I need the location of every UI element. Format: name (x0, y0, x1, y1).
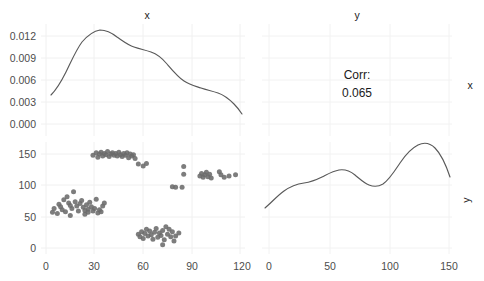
scatter-point (73, 199, 78, 204)
scatter-point (133, 156, 138, 161)
scatter-point (55, 211, 60, 216)
scatter-point (173, 185, 178, 190)
strip-label-y: y (460, 197, 472, 203)
scatter-point (102, 200, 107, 205)
xtick-y-150: 150 (440, 260, 458, 272)
scatter-point (209, 175, 214, 180)
scatter-point (144, 161, 149, 166)
ytick-150: 150 (18, 148, 36, 160)
ytick-50: 50 (24, 211, 36, 223)
scatter-point (136, 162, 141, 167)
ytick-0006: 0.006 (10, 74, 36, 86)
scatter-point (92, 206, 97, 211)
panel-scatter (41, 142, 245, 254)
scatter-point (160, 242, 165, 247)
xtick-y-0: 0 (266, 260, 272, 272)
scatter-point (87, 200, 92, 205)
scatter-point (171, 239, 176, 244)
scatter-point (63, 209, 68, 214)
scatter-point (68, 213, 73, 218)
scatter-point (141, 236, 146, 241)
scatter-point (222, 175, 227, 180)
scatter-point (94, 197, 99, 202)
scatter-point (79, 198, 84, 203)
scatter-point (227, 174, 232, 179)
scatter-point (168, 234, 173, 239)
xtick-90: 90 (186, 260, 198, 272)
scatter-point (233, 172, 238, 177)
xtick-30: 30 (88, 260, 100, 272)
scatterplot-matrix: 0.012 0.009 0.006 0.003 0.000 x Corr: 0.… (0, 0, 484, 281)
scatter-point (86, 210, 91, 215)
scatter-point (99, 209, 104, 214)
xtick-120: 120 (233, 260, 251, 272)
ytick-0: 0 (30, 242, 36, 254)
panel-correlation: Corr: 0.065 (262, 24, 452, 136)
panel-title-y: y (354, 9, 360, 21)
xtick-y-50: 50 (324, 260, 336, 272)
ytick-100: 100 (18, 179, 36, 191)
xtick-60: 60 (137, 260, 149, 272)
panel-density-y-background (262, 142, 452, 254)
scatter-point (159, 233, 164, 238)
scatter-point (65, 194, 70, 199)
panel-density-x (41, 24, 245, 136)
scatter-point (181, 172, 186, 177)
scatter-point (170, 229, 175, 234)
scatter-point (71, 189, 76, 194)
ytick-0003: 0.003 (10, 96, 36, 108)
scatter-point (69, 206, 74, 211)
ytick-0012: 0.012 (10, 30, 36, 42)
strip-label-x: x (467, 79, 473, 91)
xtick-y-100: 100 (381, 260, 399, 272)
ytick-0000: 0.000 (10, 118, 36, 130)
scatter-point (52, 206, 57, 211)
scatter-point (180, 185, 185, 190)
scatter-point (150, 237, 155, 242)
panel-title-x: x (144, 9, 150, 21)
ytick-0009: 0.009 (10, 52, 36, 64)
panel-density-y (262, 142, 452, 254)
correlation-value: 0.065 (342, 86, 372, 100)
correlation-label: Corr: (344, 68, 371, 82)
scatter-point (181, 164, 186, 169)
scatter-point (176, 230, 181, 235)
xtick-0: 0 (43, 260, 49, 272)
scatter-point (76, 209, 81, 214)
scatter-point (154, 226, 159, 231)
scatter-point (162, 237, 167, 242)
